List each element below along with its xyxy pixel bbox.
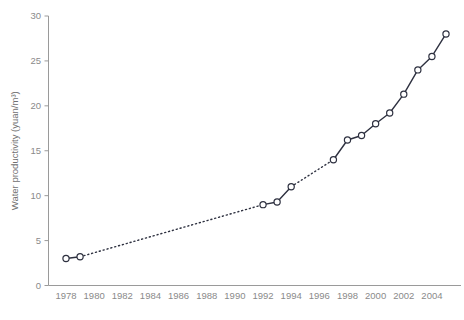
data-point-marker bbox=[344, 137, 350, 143]
data-point-marker bbox=[373, 121, 379, 127]
data-point-marker bbox=[401, 91, 407, 97]
x-axis-tick-label: 1986 bbox=[168, 290, 189, 301]
series-segment-solid bbox=[432, 34, 446, 56]
x-axis-tick-label: 1984 bbox=[140, 290, 161, 301]
x-axis-tick-label: 2002 bbox=[393, 290, 414, 301]
y-axis-tick-label: 15 bbox=[30, 145, 41, 156]
chart-container: 051015202530 197819801982198419861988199… bbox=[0, 0, 464, 320]
data-point-marker bbox=[274, 199, 280, 205]
x-axis-tick-label: 1990 bbox=[224, 290, 245, 301]
series-segment-dotted bbox=[80, 205, 263, 257]
series-segment-dotted bbox=[291, 160, 333, 187]
x-axis-tick-label: 1982 bbox=[112, 290, 133, 301]
axis-layer bbox=[49, 16, 462, 286]
x-axis-tick-label: 1978 bbox=[55, 290, 76, 301]
data-point-marker bbox=[77, 254, 83, 260]
data-point-marker bbox=[260, 202, 266, 208]
x-axis-tick-label: 1980 bbox=[84, 290, 105, 301]
y-axis-tick-label: 25 bbox=[30, 55, 41, 66]
x-axis-tick-label: 2004 bbox=[421, 290, 442, 301]
data-point-marker bbox=[288, 184, 294, 190]
data-point-marker bbox=[358, 132, 364, 138]
x-axis-tick-label: 1996 bbox=[309, 290, 330, 301]
data-point-markers bbox=[63, 31, 449, 262]
axis-title-layer: Water productivity (yuan/m³) bbox=[9, 91, 20, 210]
data-point-marker bbox=[387, 110, 393, 116]
data-point-marker bbox=[330, 157, 336, 163]
x-axis-ticks: 1978198019821984198619881990199219941996… bbox=[55, 290, 442, 301]
x-axis-tick-label: 1992 bbox=[252, 290, 273, 301]
y-axis-title: Water productivity (yuan/m³) bbox=[9, 91, 20, 210]
series-segment-solid bbox=[404, 70, 418, 94]
y-axis-tick-label: 10 bbox=[30, 190, 41, 201]
data-point-marker bbox=[429, 53, 435, 59]
data-point-marker bbox=[415, 67, 421, 73]
line-chart: 051015202530 197819801982198419861988199… bbox=[0, 0, 464, 320]
y-axis-tick-label: 30 bbox=[30, 10, 41, 21]
y-axis-tick-label: 20 bbox=[30, 100, 41, 111]
y-axis-tick-label: 5 bbox=[36, 235, 41, 246]
y-axis-tick-label: 0 bbox=[36, 280, 41, 291]
data-point-marker bbox=[63, 255, 69, 261]
x-axis-tick-label: 1994 bbox=[281, 290, 302, 301]
data-point-marker bbox=[443, 31, 449, 37]
y-axis-ticks: 051015202530 bbox=[30, 10, 48, 291]
x-axis-tick-label: 1988 bbox=[196, 290, 217, 301]
series-layer bbox=[66, 34, 446, 259]
x-axis-tick-label: 1998 bbox=[337, 290, 358, 301]
x-axis-tick-label: 2000 bbox=[365, 290, 386, 301]
